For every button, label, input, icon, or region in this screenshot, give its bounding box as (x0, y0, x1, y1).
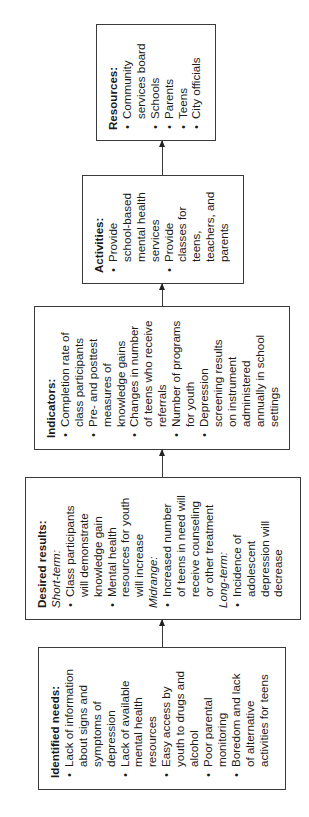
list-item: •Increased number of teens in need will … (160, 484, 216, 608)
bullet-icon: • (62, 773, 76, 777)
desired-results-content: Desired results: Short-term: •Class part… (26, 478, 302, 621)
list-item: •Incidence of adolescent depression will… (230, 484, 286, 608)
bullet-icon: • (162, 268, 176, 272)
resources-box: Resources: •Community services board •Sc… (96, 24, 216, 141)
bullet-icon: • (197, 433, 211, 437)
bullet-icon: • (86, 433, 100, 437)
list-item: •Lack of available mental health resourc… (118, 654, 160, 778)
list-item: •Schools (148, 31, 162, 130)
list-item: •Lack of information about signs and sym… (62, 654, 118, 778)
bullet-icon: • (230, 603, 244, 607)
flow-arrow-results-to-indicators (162, 450, 163, 477)
list-item: •Teens (176, 31, 190, 130)
arrowhead-icon (159, 283, 165, 290)
bullet-icon: • (159, 773, 173, 777)
list-item: •Easy access by youth to drugs and alcoh… (159, 654, 201, 778)
list-item: •Class participants will demonstrate kno… (63, 484, 105, 608)
flow-arrow-needs-to-results (162, 620, 163, 647)
list-item: •Boredom and lack of alternative activit… (229, 654, 271, 778)
arrowhead-icon (159, 449, 165, 456)
list-item: •Changes in number of teens who receive … (127, 313, 169, 438)
activities-box: Activities: •Provide school-based mental… (82, 175, 244, 284)
bullet-icon: • (58, 433, 72, 437)
midrange-label: Midrange: (146, 484, 160, 608)
identified-needs-box: Identified needs: •Lack of information a… (38, 647, 286, 790)
activities-content: Activities: •Provide school-based mental… (83, 176, 245, 285)
activities-title: Activities: (92, 182, 106, 273)
bullet-icon: • (229, 773, 243, 777)
list-item: •Provide classes for teens, teachers, an… (162, 182, 232, 273)
indicators-content: Indicators: •Completion rate of class pa… (35, 307, 291, 451)
desired-results-box: Desired results: Short-term: •Class part… (25, 477, 301, 620)
bullet-icon: • (118, 773, 132, 777)
bullet-icon: • (127, 433, 141, 437)
list-item: •Number of programs for youth (169, 313, 197, 438)
bullet-icon: • (162, 125, 176, 129)
desired-results-title: Desired results: (35, 484, 49, 608)
bullet-icon: • (63, 603, 77, 607)
list-item: •Pre- and posttest measures of knowledge… (86, 313, 128, 438)
list-item: •Poor parental monitoring (201, 654, 229, 778)
identified-needs-content: Identified needs: •Lack of information a… (39, 648, 287, 791)
short-term-label: Short-term: (49, 484, 63, 608)
list-item: •Provide school-based mental health serv… (106, 182, 162, 273)
flow-arrow-activities-to-resources (162, 141, 163, 175)
bullet-icon: • (160, 603, 174, 607)
bullet-icon: • (201, 773, 215, 777)
bullet-icon: • (106, 268, 120, 272)
list-item: •City officials (189, 31, 203, 130)
arrowhead-icon (159, 140, 165, 147)
identified-needs-title: Identified needs: (48, 654, 62, 778)
flow-arrow-indicators-to-activities (162, 284, 163, 306)
arrowhead-icon (159, 619, 165, 626)
list-item: •Community services board (120, 31, 148, 130)
bullet-icon: • (120, 125, 134, 129)
list-item: •Completion rate of class participants (58, 313, 86, 438)
bullet-icon: • (169, 433, 183, 437)
bullet-icon: • (189, 125, 203, 129)
resources-content: Resources: •Community services board •Sc… (97, 25, 217, 142)
indicators-box: Indicators: •Completion rate of class pa… (34, 306, 290, 450)
list-item: •Depression screening results on instrum… (197, 313, 280, 438)
bullet-icon: • (148, 125, 162, 129)
indicators-title: Indicators: (44, 313, 58, 438)
bullet-icon: • (176, 125, 190, 129)
list-item: •Mental health resources for youth will … (105, 484, 147, 608)
bullet-icon: • (105, 603, 119, 607)
list-item: •Parents (162, 31, 176, 130)
long-term-label: Long-term: (216, 484, 230, 608)
resources-title: Resources: (106, 31, 120, 130)
